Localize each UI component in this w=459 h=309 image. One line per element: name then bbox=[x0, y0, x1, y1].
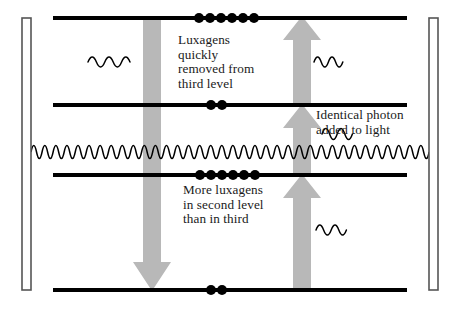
luxagen-dot bbox=[216, 13, 226, 23]
luxagen-dot bbox=[239, 170, 249, 180]
luxagen-dot bbox=[227, 13, 237, 23]
luxagen-dot bbox=[194, 13, 204, 23]
luxagen-dot bbox=[206, 170, 216, 180]
luxagen-dot bbox=[206, 285, 216, 295]
cavity-light-wave bbox=[31, 146, 429, 159]
luxagen-dot bbox=[205, 13, 215, 23]
caption-more-luxagens: More luxagens in second level than in th… bbox=[183, 183, 264, 227]
luxagen-dot bbox=[217, 170, 227, 180]
luxagen-dot bbox=[249, 13, 259, 23]
photon-lower-right bbox=[316, 225, 346, 235]
luxagen-dot bbox=[195, 170, 205, 180]
luxagen-dot bbox=[228, 170, 238, 180]
luxagen-dot bbox=[238, 13, 248, 23]
luxagen-dot bbox=[250, 170, 260, 180]
laser-energy-level-diagram: Luxagens quickly removed from third leve… bbox=[0, 0, 459, 309]
caption-identical-photon: Identical photon added to light bbox=[316, 108, 404, 137]
luxagen-dot bbox=[206, 100, 216, 110]
photon-upper-right bbox=[314, 57, 343, 67]
caption-third-level: Luxagens quickly removed from third leve… bbox=[178, 33, 254, 91]
photon-upper-left bbox=[88, 57, 130, 67]
mirror-right bbox=[429, 18, 438, 290]
mirror-left bbox=[22, 18, 31, 290]
up-arrow-bottom bbox=[283, 174, 321, 290]
luxagen-dot bbox=[217, 100, 227, 110]
luxagen-dot bbox=[217, 285, 227, 295]
